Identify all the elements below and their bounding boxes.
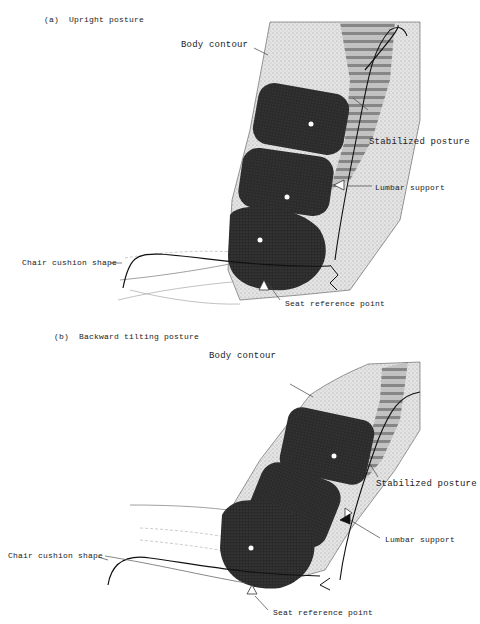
posture-diagram: [0, 0, 480, 624]
pad-center-dot: [309, 122, 314, 127]
label-lumbar-support-a: Lumbar support: [375, 183, 445, 192]
panel-a-title: Upright posture: [69, 15, 144, 24]
label-lumbar-support-b: Lumbar support: [385, 535, 455, 544]
label-stabilized-posture-a: Stabilized posture: [369, 137, 470, 147]
panel-a-letter: (a): [44, 15, 59, 24]
panel-b-letter: (b): [54, 332, 69, 341]
panel-a-caption: (a) Upright posture: [44, 15, 144, 24]
panel-b-title: Backward tilting posture: [79, 332, 199, 341]
label-chair-cushion-a: Chair cushion shape: [22, 258, 117, 267]
label-seat-reference-b: Seat reference point: [273, 608, 373, 617]
panel-a-illustration: [118, 22, 420, 304]
label-body-contour-a: Body contour: [181, 40, 248, 50]
label-body-contour-b: Body contour: [209, 351, 276, 361]
label-seat-reference-a: Seat reference point: [285, 299, 385, 308]
label-stabilized-posture-b: Stabilized posture: [376, 479, 477, 489]
label-chair-cushion-b: Chair cushion shape: [8, 551, 103, 560]
panel-b-caption: (b) Backward tilting posture: [54, 332, 199, 341]
panel-b-illustration: [105, 362, 420, 594]
